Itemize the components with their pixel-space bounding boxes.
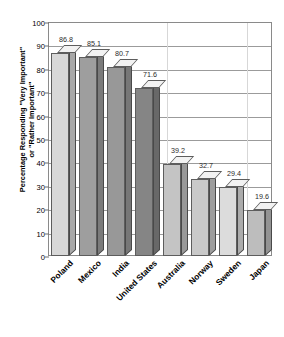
bar-top-face xyxy=(57,45,82,53)
bar-side-face xyxy=(237,181,244,256)
y-axis-tick-label: 70 xyxy=(37,89,45,98)
bar[interactable] xyxy=(163,164,181,256)
bar-front-face xyxy=(191,179,209,256)
bar[interactable] xyxy=(107,67,125,256)
bar-top-face xyxy=(253,202,278,210)
bar[interactable] xyxy=(191,179,209,256)
x-axis-category-label: Poland xyxy=(48,258,75,285)
bar-top-face xyxy=(85,49,110,57)
bar-value-label: 29.4 xyxy=(227,169,241,178)
bar-value-label: 32.7 xyxy=(199,161,213,170)
bar-front-face xyxy=(107,67,125,256)
bar-side-face xyxy=(125,61,132,256)
bar-top-face xyxy=(141,80,166,88)
bar-side-face xyxy=(97,51,104,256)
bar-front-face xyxy=(51,53,69,256)
bar[interactable] xyxy=(51,53,69,256)
y-axis-tick-label: 50 xyxy=(37,136,45,145)
bar-series: 86.885.180.771.639.232.729.419.6 xyxy=(48,22,272,256)
bar-value-label: 80.7 xyxy=(115,49,129,58)
bar[interactable] xyxy=(79,57,97,256)
bar-front-face xyxy=(79,57,97,256)
y-axis-tick-label: 40 xyxy=(37,159,45,168)
bar-value-label: 85.1 xyxy=(87,39,101,48)
bar-value-label: 19.6 xyxy=(255,192,269,201)
bar-chart: Importance of God — Percentage by Countr… xyxy=(0,0,284,337)
bar-front-face xyxy=(247,210,265,256)
bar[interactable] xyxy=(135,88,153,256)
bar[interactable] xyxy=(247,210,265,256)
bar-front-face xyxy=(219,187,237,256)
y-axis-tick-label: 60 xyxy=(37,112,45,121)
bar-top-face xyxy=(113,59,138,67)
x-axis-labels: PolandMexicoIndiaUnited StatesAustraliaN… xyxy=(48,258,272,336)
bar-side-face xyxy=(209,173,216,256)
bar[interactable] xyxy=(219,187,237,256)
y-axis-tick-label: 20 xyxy=(37,206,45,215)
y-axis-tick-label: 80 xyxy=(37,65,45,74)
bar-side-face xyxy=(69,47,76,256)
y-axis-label: Percentage Responding "Very Important" o… xyxy=(18,16,37,222)
bar-top-face xyxy=(225,179,250,187)
bar-side-face xyxy=(153,82,160,256)
x-axis-category-label: Norway xyxy=(187,258,215,286)
bar-front-face xyxy=(163,164,181,256)
y-axis-tick-label: 100 xyxy=(32,19,45,28)
bar-top-face xyxy=(197,171,222,179)
y-axis-tick-label: 30 xyxy=(37,182,45,191)
bar-value-label: 86.8 xyxy=(59,35,73,44)
y-axis-tick-label: 90 xyxy=(37,42,45,51)
x-axis-category-label: India xyxy=(110,258,131,279)
bar-value-label: 39.2 xyxy=(171,146,185,155)
bar-value-label: 71.6 xyxy=(143,70,157,79)
y-axis-tick-label: 10 xyxy=(37,229,45,238)
bar-top-face xyxy=(169,156,194,164)
bar-side-face xyxy=(265,204,272,256)
bar-side-face xyxy=(181,158,188,256)
y-axis-tick-label: 0 xyxy=(41,253,45,262)
x-axis-category-label: Australia xyxy=(155,258,187,290)
x-axis-category-label: Mexico xyxy=(76,258,103,285)
x-axis-category-label: Japan xyxy=(247,258,271,282)
x-axis-category-label: Sweden xyxy=(214,258,243,287)
bar-front-face xyxy=(135,88,153,256)
